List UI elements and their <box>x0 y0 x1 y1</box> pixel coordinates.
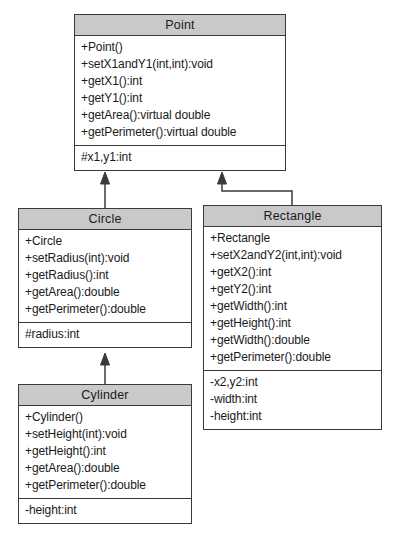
methods-section-cylinder: +Cylinder() +setHeight(int):void +getHei… <box>19 406 191 498</box>
arrowhead-circle-to-point <box>101 172 110 184</box>
class-member: +getPerimeter():virtual double <box>75 124 285 141</box>
class-name-point: Point <box>75 15 285 36</box>
class-member: +getX2():int <box>204 264 381 281</box>
class-member: +getPerimeter():double <box>19 301 191 318</box>
class-member: #x1,y1:int <box>75 149 285 166</box>
class-member: +Circle <box>19 233 191 250</box>
class-member: +Point() <box>75 39 285 56</box>
connector-rectangle-to-point <box>222 183 292 205</box>
class-member: +getPerimeter():double <box>19 477 191 494</box>
class-member: +getArea():double <box>19 460 191 477</box>
arrowhead-cylinder-to-circle <box>101 353 110 365</box>
class-member: +setRadius(int):void <box>19 250 191 267</box>
class-member: #radius:int <box>19 326 191 343</box>
class-member: +getHeight():int <box>204 315 381 332</box>
class-member: +Cylinder() <box>19 409 191 426</box>
class-member: +getY1():int <box>75 90 285 107</box>
class-member: -height:int <box>19 502 191 519</box>
class-member: +setX2andY2(int,int):void <box>204 247 381 264</box>
class-member: +getArea():double <box>19 284 191 301</box>
class-box-circle[interactable]: Circle +Circle +setRadius(int):void +get… <box>18 208 192 348</box>
class-box-point[interactable]: Point +Point() +setX1andY1(int,int):void… <box>74 14 286 171</box>
attributes-section-circle: #radius:int <box>19 322 191 347</box>
methods-section-rectangle: +Rectangle +setX2andY2(int,int):void +ge… <box>204 227 381 370</box>
class-member: +getHeight():int <box>19 443 191 460</box>
class-member: +getX1():int <box>75 73 285 90</box>
attributes-section-rectangle: -x2,y2:int -width:int -height:int <box>204 370 381 429</box>
class-member: +getY2():int <box>204 281 381 298</box>
class-member: +Rectangle <box>204 230 381 247</box>
attributes-section-cylinder: -height:int <box>19 498 191 523</box>
methods-section-circle: +Circle +setRadius(int):void +getRadius(… <box>19 230 191 322</box>
class-member: +setHeight(int):void <box>19 426 191 443</box>
class-member: +setX1andY1(int,int):void <box>75 56 285 73</box>
class-member: +getWidth():int <box>204 298 381 315</box>
class-member: +getRadius():int <box>19 267 191 284</box>
class-member: -width:int <box>204 391 381 408</box>
class-name-rectangle: Rectangle <box>204 206 381 227</box>
arrowhead-rectangle-to-point <box>218 172 227 184</box>
class-name-circle: Circle <box>19 209 191 230</box>
class-box-rectangle[interactable]: Rectangle +Rectangle +setX2andY2(int,int… <box>203 205 382 430</box>
methods-section-point: +Point() +setX1andY1(int,int):void +getX… <box>75 36 285 145</box>
attributes-section-point: #x1,y1:int <box>75 145 285 170</box>
class-member: +getWidth():double <box>204 332 381 349</box>
class-member: -x2,y2:int <box>204 374 381 391</box>
class-member: +getArea():virtual double <box>75 107 285 124</box>
class-box-cylinder[interactable]: Cylinder +Cylinder() +setHeight(int):voi… <box>18 384 192 524</box>
class-member: -height:int <box>204 408 381 425</box>
class-member: +getPerimeter():double <box>204 349 381 366</box>
uml-class-diagram: Point +Point() +setX1andY1(int,int):void… <box>0 0 397 542</box>
class-name-cylinder: Cylinder <box>19 385 191 406</box>
